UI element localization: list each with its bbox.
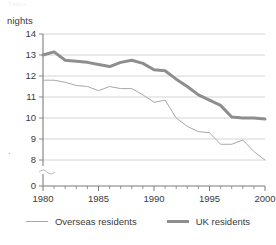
line-swatch-icon: [167, 220, 189, 223]
y-axis-tick-label: 12: [25, 70, 36, 81]
x-axis-tick-label: 1985: [88, 193, 109, 204]
y-axis-tick-label: 14: [25, 28, 36, 39]
x-axis-tick-label: 1995: [199, 193, 220, 204]
y-axis-tick-label: 0: [31, 180, 36, 191]
y-axis-tick-label: 9: [31, 133, 36, 144]
line-swatch-icon: [26, 221, 48, 222]
legend-item-overseas-residents: Overseas residents: [26, 216, 137, 227]
x-axis-tick-label: 1990: [143, 193, 164, 204]
y-axis-tick-label: 10: [25, 112, 36, 123]
series-line-overseas-residents: [43, 80, 265, 160]
axis-break-icon: [39, 170, 55, 174]
y-axis-tick-label: 11: [26, 91, 36, 102]
line-chart-plot: 089101112131419801985199019952000: [0, 0, 276, 245]
x-axis-tick-label: 2000: [254, 193, 275, 204]
legend-label-overseas-residents: Overseas residents: [55, 216, 137, 227]
y-axis-tick-label: 13: [25, 49, 36, 60]
x-axis-tick-label: 1980: [32, 193, 53, 204]
legend-label-uk-residents: UK residents: [196, 216, 250, 227]
chart-container: Table nights · 0891011121314198019851990…: [0, 0, 276, 245]
chart-legend: Overseas residents UK residents: [0, 216, 276, 227]
y-axis-tick-label: 8: [31, 154, 36, 165]
legend-item-uk-residents: UK residents: [167, 216, 250, 227]
